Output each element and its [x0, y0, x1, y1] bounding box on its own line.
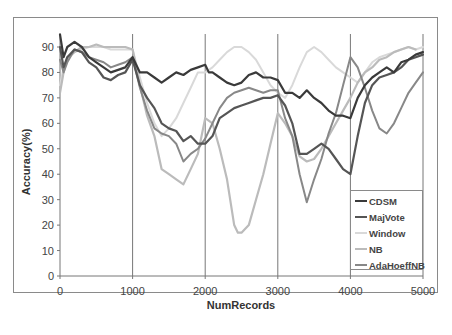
y-tick-label: 90	[42, 41, 54, 53]
x-axis-title: NumRecords	[207, 299, 275, 311]
chart-area-border	[14, 18, 212, 155]
series-line-adahoeffnb	[60, 50, 423, 203]
x-tick-label: 2000	[193, 285, 217, 297]
y-tick-label: 30	[42, 194, 54, 206]
y-tick-label: 40	[42, 168, 54, 180]
y-tick-label: 70	[42, 92, 54, 104]
y-axis-title: Accuracy(%)	[20, 128, 32, 195]
legend-label: Window	[369, 228, 406, 239]
x-tick-label: 1000	[120, 285, 144, 297]
x-tick-label: 3000	[266, 285, 290, 297]
y-tick-label: 20	[42, 219, 54, 231]
chart-border	[14, 18, 211, 155]
x-tick-label: 5000	[411, 285, 435, 297]
legend-label: AdaHoeffNB	[369, 260, 425, 271]
y-tick-label: 50	[42, 143, 54, 155]
x-tick-label: 4000	[338, 285, 362, 297]
legend-label: CDSM	[369, 196, 397, 207]
y-tick-label: 80	[42, 66, 54, 78]
legend: CDSMMajVoteWindowNBAdaHoeffNB	[351, 191, 426, 271]
y-tick-label: 10	[42, 245, 54, 257]
chart-outer-border	[14, 18, 212, 155]
accuracy-line-chart: 0102030405060708090010002000300040005000…	[0, 0, 452, 335]
legend-label: NB	[369, 244, 383, 255]
x-tick-label: 0	[57, 285, 63, 297]
y-tick-label: 0	[48, 270, 54, 282]
legend-label: MajVote	[369, 212, 405, 223]
y-tick-label: 60	[42, 117, 54, 129]
